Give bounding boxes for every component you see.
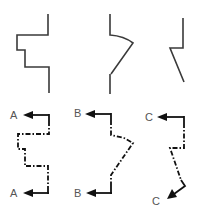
label-b-end: B [74,187,81,199]
cut-b-path [111,120,133,186]
profile-kinked-line [170,18,184,82]
cutting-plane-b: B B [74,107,133,199]
arrow-a-end-head-icon [23,189,33,197]
label-a-start: A [10,109,18,121]
profile-angled-offset [110,14,133,94]
arrow-b-start-head-icon [85,110,95,118]
arrow-b-end-head-icon [86,189,96,197]
arrow-c-end-shaft [174,180,185,194]
cut-c-path [170,123,184,180]
profile-kinked [170,18,184,82]
label-a-end: A [10,187,18,199]
cutting-plane-c: C C [145,111,185,207]
label-b-start: B [74,107,81,119]
cut-a-path [18,121,49,186]
label-c-end: C [152,195,160,207]
label-c-start: C [145,111,153,123]
arrow-c-start-head-icon [157,113,167,121]
diagram-canvas: A A B B C C [0,0,199,211]
cutting-plane-a: A A [10,109,49,199]
profile-angled-offset-line [110,14,133,94]
profile-stepped [17,14,49,93]
profile-stepped-line [17,14,49,93]
arrow-a-start-head-icon [23,111,33,119]
